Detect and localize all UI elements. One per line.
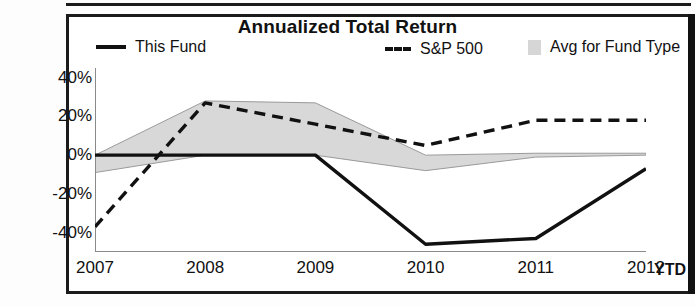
legend-label-avg-fund-type: Avg for Fund Type <box>550 38 680 56</box>
chart-legend: This Fund S&P 500 Avg for Fund Type <box>80 38 680 62</box>
y-axis-labels: 40% 20% 0% -20% -40% <box>30 60 92 260</box>
solid-line-swatch-icon <box>96 45 126 49</box>
legend-label-sp500: S&P 500 <box>420 40 483 58</box>
x-axis-labels: 2007 2008 2009 2010 2011 2012 <box>0 258 695 284</box>
x-tick-label: 2007 <box>76 258 114 278</box>
x-tick-label: 2008 <box>186 258 224 278</box>
shaded-area-swatch-icon <box>528 40 541 55</box>
legend-label-this-fund: This Fund <box>135 38 206 56</box>
y-tick-label: 0% <box>67 145 92 165</box>
legend-item-this-fund: This Fund <box>96 38 206 56</box>
y-tick-label: -20% <box>52 184 92 204</box>
y-tick-label: 20% <box>58 106 92 126</box>
legend-item-sp500: S&P 500 <box>385 40 483 58</box>
x-tick-label: 2009 <box>296 258 334 278</box>
chart-canvas <box>95 68 646 252</box>
x-tick-label: 2010 <box>407 258 445 278</box>
page-edge-shadow <box>688 14 695 294</box>
chart-title: Annualized Total Return <box>0 16 695 38</box>
x-axis-ytd-label: YTD <box>654 261 686 279</box>
band-avg-for-fund-type <box>95 101 646 173</box>
legend-item-avg-fund-type: Avg for Fund Type <box>528 38 680 56</box>
x-tick-label: 2011 <box>518 258 555 278</box>
chart-panel: Annualized Total Return This Fund S&P 50… <box>0 0 695 307</box>
dashed-line-swatch-icon <box>385 47 411 51</box>
y-tick-label: 40% <box>58 68 92 88</box>
y-tick-label: -40% <box>52 223 92 243</box>
plot-area <box>95 68 646 252</box>
panel-divider-strip <box>66 0 691 6</box>
series-line-this-fund <box>95 155 646 244</box>
